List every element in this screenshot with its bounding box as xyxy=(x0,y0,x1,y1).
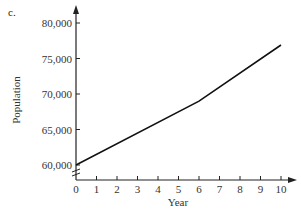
population-line xyxy=(76,45,281,165)
x-axis-label: Year xyxy=(168,196,189,208)
x-tick-label: 8 xyxy=(237,183,243,195)
y-tick-label: 65,000 xyxy=(42,124,73,136)
y-tick-label: 60,000 xyxy=(42,159,73,171)
x-tick-label: 10 xyxy=(276,183,288,195)
x-tick-label: 3 xyxy=(135,183,141,195)
x-tick-label: 5 xyxy=(176,183,182,195)
x-tick-label: 2 xyxy=(114,183,120,195)
y-tick-label: 75,000 xyxy=(42,53,73,65)
x-tick-label: 7 xyxy=(217,183,223,195)
y-axis-arrow-icon xyxy=(73,5,79,14)
x-axis-arrow-icon xyxy=(288,177,297,183)
y-tick-label: 70,000 xyxy=(42,88,73,100)
line-chart: 60,00065,00070,00075,00080,000 012345678… xyxy=(0,0,301,210)
x-tick-label: 0 xyxy=(73,183,79,195)
x-tick-label: 9 xyxy=(258,183,264,195)
x-tick-label: 1 xyxy=(94,183,100,195)
y-tick-label: 80,000 xyxy=(42,17,73,29)
x-tick-label: 6 xyxy=(196,183,202,195)
x-ticks: 012345678910 xyxy=(73,176,287,195)
x-tick-label: 4 xyxy=(155,183,161,195)
y-axis-label: Population xyxy=(10,76,22,124)
y-ticks: 60,00065,00070,00075,00080,000 xyxy=(42,17,80,171)
